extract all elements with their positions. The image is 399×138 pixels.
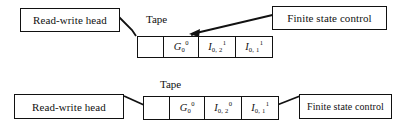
finite-state-control-label-bottom: Finite state control	[307, 101, 384, 112]
read-write-head-label-bottom: Read-write head	[32, 101, 106, 113]
leader-line-bottom-head	[124, 96, 144, 105]
leader-line-top-head	[119, 17, 136, 36]
read-write-head-label-top: Read-write head	[33, 14, 107, 26]
finite-state-control-label-top: Finite state control	[287, 12, 371, 24]
tape-cell[interactable]: I0, 20	[204, 96, 242, 120]
tape-cell[interactable]	[143, 96, 170, 120]
finite-state-control-box-top[interactable]: Finite state control	[272, 6, 387, 30]
tape-label-top: Tape	[146, 13, 167, 25]
read-write-head-box-top[interactable]: Read-write head	[20, 8, 120, 32]
tape-cell[interactable]: I0, 21	[198, 36, 236, 58]
read-write-head-box-bottom[interactable]: Read-write head	[14, 94, 124, 119]
tape-cell[interactable]: G00	[163, 36, 199, 58]
tape-cell-symbol: G00	[180, 103, 194, 114]
tape-cell-symbol: I0, 11	[251, 103, 269, 114]
tape-label-bottom: Tape	[160, 78, 181, 90]
leader-line-bottom-control	[277, 96, 300, 105]
leader-line-top-control	[196, 13, 281, 33]
tape-cell-symbol: I0, 20	[214, 103, 232, 114]
tape-cell[interactable]: G00	[169, 96, 205, 120]
tape-cell[interactable]	[137, 36, 164, 58]
tape-cell[interactable]: I0, 11	[235, 36, 273, 58]
tape-cell[interactable]: I0, 11	[241, 96, 279, 120]
tape-cell-symbol: G00	[174, 42, 188, 53]
finite-state-control-box-bottom[interactable]: Finite state control	[299, 94, 392, 119]
tape-cell-symbol: I0, 21	[208, 42, 226, 53]
tape-cell-symbol: I0, 11	[245, 42, 263, 53]
turing-machine-figure: Read-write head Tape Finite state contro…	[0, 0, 399, 138]
